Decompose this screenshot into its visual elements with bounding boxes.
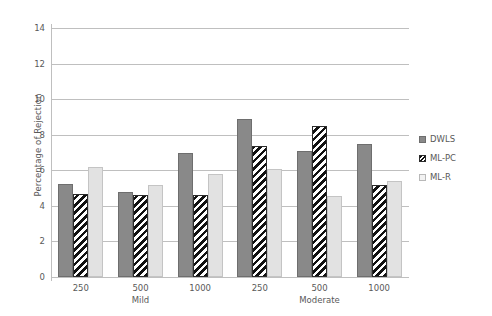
bar-dwls-500-mild <box>118 192 133 277</box>
y-tick-label: 12 <box>3 59 45 69</box>
bar-ml-r-250-mild <box>88 167 103 277</box>
gridline <box>51 28 409 29</box>
gridline <box>51 170 409 171</box>
bar-ml-pc-1000-mild <box>193 195 208 277</box>
bar-dwls-250-mild <box>58 184 73 277</box>
bar-ml-pc-250-moderate <box>252 146 267 277</box>
bar-chart-figure: Percentage of Rejection 02468101214 2505… <box>0 0 492 316</box>
gridline <box>51 99 409 100</box>
legend-item-dwls[interactable]: DWLS <box>419 134 489 144</box>
bar-dwls-500-moderate <box>297 151 312 277</box>
y-tick-label: 4 <box>3 201 45 211</box>
group-label-moderate: Moderate <box>275 295 365 305</box>
x-tick-label: 1000 <box>349 283 409 293</box>
x-tick-label: 500 <box>111 283 171 293</box>
gridline <box>51 135 409 136</box>
bar-ml-pc-500-mild <box>133 195 148 277</box>
y-tick-label: 6 <box>3 165 45 175</box>
mlpc-swatch-icon <box>419 155 426 162</box>
y-tick-label: 2 <box>3 236 45 246</box>
bar-ml-r-500-mild <box>148 185 163 277</box>
x-axis-baseline <box>51 277 409 278</box>
legend-item-ml-r[interactable]: ML-R <box>419 172 489 182</box>
chart-legend: DWLSML-PCML-R <box>419 134 489 191</box>
bar-ml-pc-500-moderate <box>312 126 327 277</box>
plot-area <box>51 28 409 277</box>
legend-item-label: DWLS <box>430 134 455 144</box>
legend-item-label: ML-R <box>430 172 451 182</box>
group-label-mild: Mild <box>96 295 186 305</box>
bar-ml-r-1000-moderate <box>387 181 402 277</box>
bar-dwls-1000-moderate <box>357 144 372 277</box>
gridline <box>51 241 409 242</box>
x-tick-label: 500 <box>290 283 350 293</box>
bar-ml-pc-250-mild <box>73 194 88 277</box>
y-tick-label: 0 <box>3 272 45 282</box>
dwls-swatch-icon <box>419 136 426 143</box>
bar-ml-r-250-moderate <box>267 169 282 277</box>
x-tick-label: 1000 <box>170 283 230 293</box>
gridline <box>51 206 409 207</box>
x-tick-label: 250 <box>230 283 290 293</box>
bar-ml-r-1000-mild <box>208 174 223 277</box>
y-axis-tick-labels: 02468101214 <box>0 0 45 316</box>
bar-ml-pc-1000-moderate <box>372 185 387 277</box>
bar-dwls-250-moderate <box>237 119 252 277</box>
mlr-swatch-icon <box>419 174 426 181</box>
bar-ml-r-500-moderate <box>327 196 342 277</box>
legend-item-label: ML-PC <box>430 153 456 163</box>
gridline <box>51 64 409 65</box>
y-tick-label: 14 <box>3 23 45 33</box>
bar-dwls-1000-mild <box>178 153 193 277</box>
legend-item-ml-pc[interactable]: ML-PC <box>419 153 489 163</box>
x-tick-label: 250 <box>51 283 111 293</box>
y-tick-label: 8 <box>3 130 45 140</box>
y-tick-label: 10 <box>3 94 45 104</box>
